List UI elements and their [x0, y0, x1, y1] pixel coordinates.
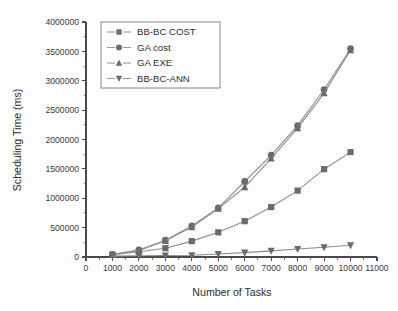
chart-legend: BB-BC COSTGA costGA EXEBB-BC-ANN: [101, 22, 220, 88]
legend-label: GA EXE: [137, 57, 172, 68]
data-point: [242, 218, 248, 224]
y-axis-title: Scheduling Time (ms): [11, 89, 23, 191]
x-axis-ticks: 0100020003000400050006000700080009000100…: [84, 257, 389, 273]
x-tick-label: 11000: [365, 263, 388, 273]
legend-label: BB-BC-ANN: [137, 73, 190, 84]
legend-label: GA cost: [137, 42, 171, 53]
x-tick-label: 3000: [156, 263, 175, 273]
chart-container: 0500000100000015000002000000250000030000…: [0, 0, 398, 311]
y-tick-label: 500000: [50, 223, 79, 233]
data-point: [189, 238, 195, 244]
data-point: [268, 204, 274, 210]
x-tick-label: 10000: [339, 263, 363, 273]
y-tick-label: 3500000: [46, 47, 80, 57]
series-bb-bc-cost: [109, 149, 353, 258]
x-tick-label: 6000: [235, 263, 254, 273]
data-point: [162, 245, 168, 251]
data-point: [215, 229, 221, 235]
legend-label: BB-BC COST: [137, 26, 196, 37]
data-point: [347, 149, 353, 155]
series-line: [112, 152, 350, 255]
y-tick-label: 1500000: [46, 164, 80, 174]
x-tick-label: 8000: [288, 263, 307, 273]
y-tick-label: 2000000: [46, 135, 80, 145]
y-tick-label: 3000000: [46, 76, 80, 86]
x-tick-label: 7000: [262, 263, 281, 273]
data-point: [295, 188, 301, 194]
y-tick-label: 2500000: [46, 105, 80, 115]
legend-marker-icon: [116, 29, 121, 34]
x-tick-label: 9000: [315, 263, 334, 273]
y-tick-label: 4000000: [46, 17, 80, 27]
legend-marker-icon: [116, 45, 122, 51]
y-tick-label: 1000000: [46, 193, 80, 203]
x-tick-label: 5000: [209, 263, 228, 273]
x-tick-label: 1000: [103, 263, 122, 273]
y-axis-ticks: 0500000100000015000002000000250000030000…: [46, 17, 86, 262]
data-point: [321, 166, 327, 172]
x-tick-label: 4000: [182, 263, 201, 273]
x-tick-label: 0: [84, 263, 89, 273]
y-tick-label: 0: [74, 252, 79, 262]
x-tick-label: 2000: [129, 263, 148, 273]
x-axis-title: Number of Tasks: [192, 286, 271, 298]
line-chart: 0500000100000015000002000000250000030000…: [0, 0, 398, 311]
